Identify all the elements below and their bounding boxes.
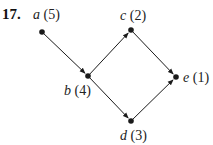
node-label-c: c (2) xyxy=(120,8,146,24)
edge-d-e xyxy=(131,80,173,121)
edge-b-d xyxy=(88,76,128,118)
node-d xyxy=(128,118,134,124)
node-label-a: a (5) xyxy=(33,7,60,23)
node-label-b: b (4) xyxy=(64,83,91,99)
node-c xyxy=(128,27,134,33)
node-label-d: d (3) xyxy=(120,128,147,144)
node-b xyxy=(85,73,91,79)
problem-number: 17. xyxy=(2,6,21,22)
node-e xyxy=(173,74,179,80)
edge-c-e xyxy=(131,30,173,74)
node-a xyxy=(39,29,45,35)
directed-graph: 17. a (5)b (4)c (2)d (3)e (1) xyxy=(0,0,213,145)
edge-b-c xyxy=(88,33,128,76)
node-label-e: e (1) xyxy=(183,70,209,86)
edge-a-b xyxy=(42,32,85,73)
